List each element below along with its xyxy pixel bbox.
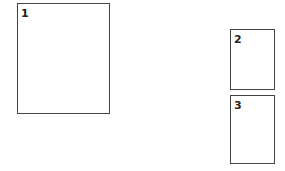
page-box-3: 3 bbox=[230, 95, 275, 164]
page-box-2: 2 bbox=[230, 29, 275, 90]
page-box-1: 1 bbox=[17, 3, 110, 114]
box-1-label: 1 bbox=[21, 8, 29, 19]
box-3-label: 3 bbox=[234, 100, 242, 111]
box-2-label: 2 bbox=[234, 34, 242, 45]
